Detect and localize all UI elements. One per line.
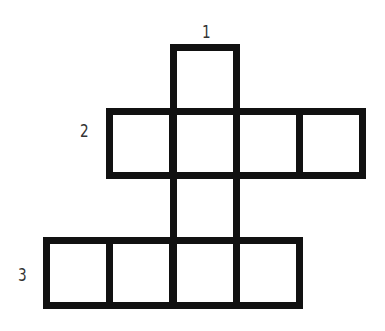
grid-cell-r3-c0[interactable] (43, 237, 113, 309)
grid-cell-r1-c1[interactable] (106, 108, 176, 179)
grid-cell-r1-c4[interactable] (296, 108, 366, 179)
grid-cell-r2-c2[interactable] (170, 172, 240, 244)
clue-number-1: 1 (202, 24, 211, 41)
grid-cell-r0-c2[interactable] (170, 44, 240, 115)
grid-cell-r3-c3[interactable] (233, 237, 303, 309)
grid-cell-r1-c2[interactable] (170, 108, 240, 179)
clue-number-3: 3 (18, 267, 27, 284)
grid-cell-r1-c3[interactable] (233, 108, 303, 179)
clue-number-2: 2 (80, 123, 89, 140)
grid-cell-r3-c2[interactable] (170, 237, 240, 309)
grid-cell-r3-c1[interactable] (106, 237, 176, 309)
